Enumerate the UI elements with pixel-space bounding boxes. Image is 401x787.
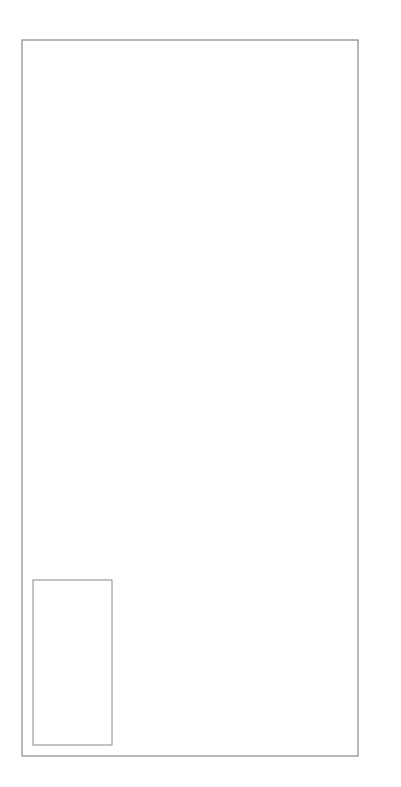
stock-price-chart [0,0,401,787]
legend-box [33,580,112,745]
